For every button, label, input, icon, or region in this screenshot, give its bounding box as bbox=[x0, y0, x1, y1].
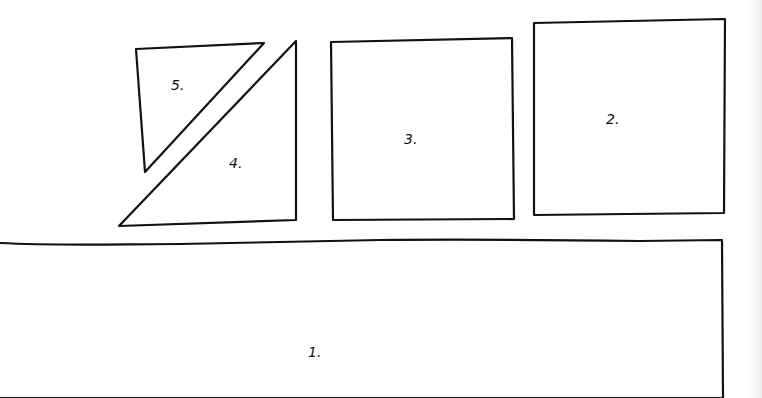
piece-4-label: 4. bbox=[229, 155, 242, 171]
piece-3-outline bbox=[331, 38, 514, 220]
page-edge-shadow bbox=[748, 0, 762, 398]
piece-3-label: 3. bbox=[404, 131, 417, 147]
piece-2: 2. bbox=[534, 19, 725, 215]
piece-1-label: 1. bbox=[308, 344, 321, 360]
piece-1: 1. bbox=[0, 240, 723, 398]
piece-2-outline bbox=[534, 19, 725, 215]
piece-5-label: 5. bbox=[171, 77, 184, 93]
diagram-canvas: 1. 2. 3. 4. 5. bbox=[0, 0, 762, 398]
piece-2-label: 2. bbox=[606, 111, 619, 127]
piece-3: 3. bbox=[331, 38, 514, 220]
piece-1-outline bbox=[0, 240, 723, 398]
